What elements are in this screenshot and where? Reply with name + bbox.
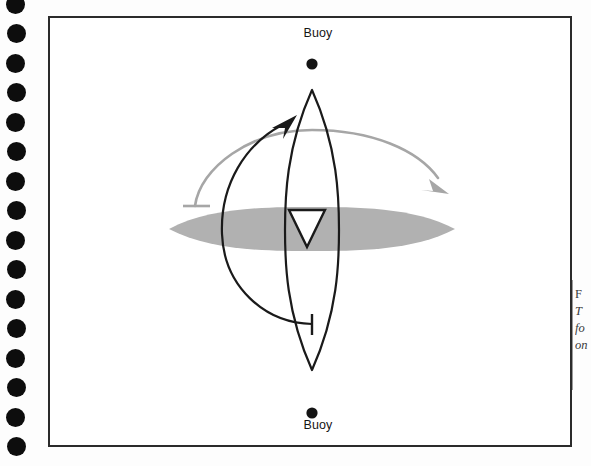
binding-hole [6,172,25,191]
binding-hole [7,83,26,102]
binding-hole [7,142,26,161]
gray-wind-arc [183,130,449,206]
caption-line-2: fo [575,320,591,337]
caption-figure-number: F [575,286,591,303]
spiral-binding-holes [0,0,34,466]
binding-hole [7,319,26,338]
binding-hole [6,290,25,309]
binding-hole [6,408,25,427]
binding-hole [7,24,26,43]
buoy-marker-bottom [306,407,317,418]
binding-hole [6,113,25,132]
binding-hole [7,260,26,279]
binding-hole [6,0,25,14]
scanned-page: Buoy Buoy F T fo on [0,0,591,466]
binding-hole [6,231,25,250]
diagram-scene [50,18,574,449]
buoy-marker-top [306,58,317,69]
figure-frame: Buoy Buoy [48,16,572,447]
binding-hole [7,201,26,220]
binding-hole [6,54,25,73]
caption-line-1: T [575,303,591,320]
buoy-label-top: Buoy [288,26,348,40]
caption-line-3: on [575,337,591,354]
binding-hole [7,378,26,397]
buoy-label-bottom: Buoy [288,418,348,432]
figure-caption: F T fo on [575,286,591,386]
page-edge-rule [572,280,573,390]
gray-arrowhead [421,179,449,194]
binding-hole [6,349,25,368]
binding-hole [7,437,26,456]
